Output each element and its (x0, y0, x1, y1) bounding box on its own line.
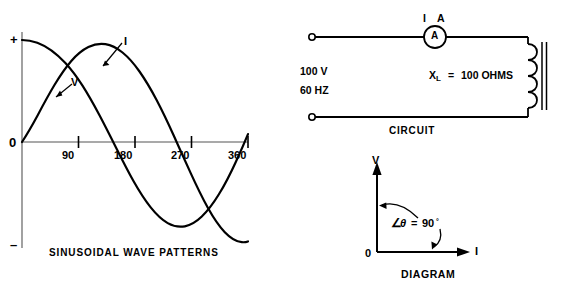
phasor-origin-label: 0 (365, 248, 371, 259)
angle-theta-symbol: θ (400, 218, 406, 229)
ammeter-unit-label: A (437, 13, 445, 24)
phasor-caption: DIAGRAM (401, 269, 455, 280)
waveform-positive-mark: + (10, 33, 18, 46)
bottom-terminal-dot (309, 114, 315, 120)
phasor-voltage-label: V (372, 155, 379, 166)
angle-degree-symbol: ° (436, 218, 439, 225)
figure-root: + 0 – 90 180 270 360 I V SINUSOIDAL WAVE… (0, 0, 566, 290)
reactance-value: 100 OHMS (461, 70, 513, 81)
waveform-panel: + 0 – 90 180 270 360 I V SINUSOIDAL WAVE… (0, 0, 283, 290)
current-phasor-arrowhead (457, 247, 470, 256)
waveform-negative-mark: – (10, 238, 17, 251)
circuit-panel: A I A 100 V 60 HZ X L = 100 OHMS CIRCUIT (283, 0, 566, 145)
angle-value: 90 (422, 218, 434, 229)
waveform-tick-label-270: 270 (171, 150, 189, 161)
waveform-tick-label-360: 360 (228, 150, 246, 161)
waveform-tick-label-90: 90 (62, 150, 74, 161)
waveform-tick-label-180: 180 (114, 150, 132, 161)
current-curve-label: I (124, 36, 127, 47)
ammeter-letter: A (431, 31, 438, 41)
voltage-curve-label: V (71, 77, 78, 88)
voltage-curve (22, 40, 248, 227)
reactance-symbol: X (429, 70, 436, 81)
inductor-coil (528, 44, 537, 108)
waveform-caption: SINUSOIDAL WAVE PATTERNS (49, 248, 219, 258)
phasor-current-label: I (475, 246, 478, 257)
angle-equals-sign: = (411, 218, 417, 229)
angle-leader-upper-arrowhead (379, 202, 387, 209)
source-frequency-label: 60 HZ (300, 85, 329, 96)
source-voltage-label: 100 V (300, 66, 327, 77)
waveform-zero-mark: 0 (9, 136, 16, 149)
phasor-panel: V I 0 ∠ θ = 90 ° DIAGRAM (330, 145, 566, 290)
reactance-equals-sign: = (448, 70, 454, 81)
top-terminal-dot (309, 34, 315, 40)
ammeter-current-label: I (423, 13, 426, 24)
reactance-subscript: L (436, 75, 441, 83)
circuit-caption: CIRCUIT (389, 126, 435, 136)
voltage-label-arrowhead (56, 91, 62, 97)
